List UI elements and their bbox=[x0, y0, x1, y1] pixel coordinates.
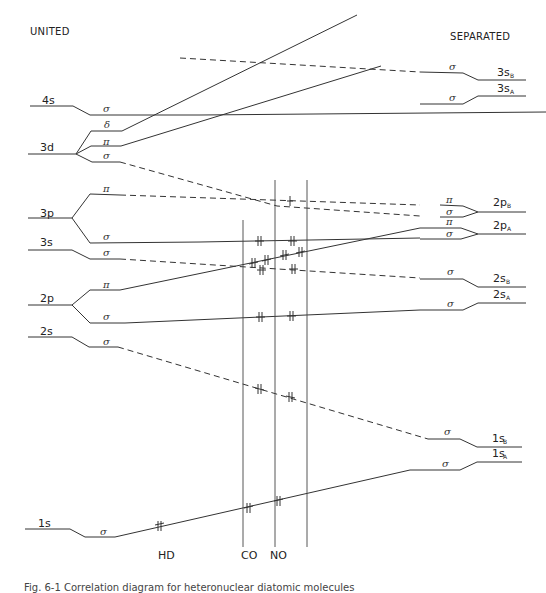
co-label: CO bbox=[241, 549, 258, 562]
separated-level-3sA: σ 3s A bbox=[420, 82, 526, 104]
svg-text:σ: σ bbox=[103, 247, 111, 258]
svg-text:3s: 3s bbox=[40, 236, 53, 249]
svg-text:A: A bbox=[510, 88, 515, 95]
separated-level-2pA: π σ 2p A bbox=[420, 216, 526, 239]
svg-text:3s: 3s bbox=[497, 66, 510, 79]
no-label: NO bbox=[270, 549, 287, 562]
svg-text:σ: σ bbox=[103, 336, 111, 347]
united-level-3d: 3d δ π σ bbox=[28, 15, 420, 216]
electron-pairs bbox=[155, 196, 305, 531]
hd-label: HD bbox=[158, 549, 175, 562]
svg-text:A: A bbox=[506, 294, 511, 301]
svg-text:δ: δ bbox=[104, 119, 110, 130]
svg-text:σ: σ bbox=[103, 231, 111, 242]
separated-level-3sB: σ 3s B bbox=[420, 61, 526, 80]
svg-text:B: B bbox=[507, 202, 511, 209]
svg-text:σ: σ bbox=[449, 61, 457, 72]
svg-text:σ: σ bbox=[103, 311, 111, 322]
separated-level-2sB: σ 2s B bbox=[420, 266, 526, 287]
separated-level-2pB: π σ 2p B bbox=[440, 194, 526, 217]
svg-text:A: A bbox=[507, 225, 512, 232]
svg-text:π: π bbox=[102, 136, 110, 147]
svg-text:1s: 1s bbox=[38, 517, 51, 530]
united-header: UNITED bbox=[30, 26, 70, 37]
svg-text:B: B bbox=[503, 438, 507, 445]
united-level-2s: 2s σ bbox=[28, 325, 428, 439]
svg-text:π: π bbox=[445, 194, 453, 205]
svg-text:σ: σ bbox=[444, 426, 452, 437]
svg-text:2p: 2p bbox=[493, 219, 507, 232]
svg-text:2s: 2s bbox=[493, 288, 506, 301]
svg-text:2p: 2p bbox=[40, 292, 54, 305]
separated-header: SEPARATED bbox=[450, 31, 510, 42]
svg-text:σ: σ bbox=[103, 103, 111, 114]
united-level-2p: 2p π σ bbox=[28, 228, 420, 323]
separated-level-1sB: σ 1s B bbox=[428, 426, 522, 447]
svg-text:3s: 3s bbox=[497, 82, 510, 95]
svg-text:σ: σ bbox=[103, 150, 111, 161]
united-level-3s: 3s σ bbox=[28, 236, 420, 278]
svg-text:2s: 2s bbox=[493, 272, 506, 285]
united-level-4s: 4s σ bbox=[30, 94, 546, 115]
svg-text:4s: 4s bbox=[42, 94, 55, 107]
svg-text:σ: σ bbox=[446, 228, 454, 239]
united-level-3p: 3p π σ bbox=[28, 183, 420, 243]
separated-level-1sA: σ 1s A bbox=[410, 447, 522, 470]
svg-text:σ: σ bbox=[447, 266, 455, 277]
figure-caption: Fig. 6-1 Correlation diagram for heteron… bbox=[24, 582, 354, 593]
svg-text:π: π bbox=[102, 183, 110, 194]
svg-text:σ: σ bbox=[100, 526, 108, 537]
svg-text:A: A bbox=[503, 453, 508, 460]
svg-text:σ: σ bbox=[442, 458, 450, 469]
svg-text:σ: σ bbox=[449, 92, 457, 103]
svg-text:B: B bbox=[506, 278, 510, 285]
svg-text:σ: σ bbox=[447, 298, 455, 309]
svg-text:B: B bbox=[510, 72, 514, 79]
svg-text:3d: 3d bbox=[40, 141, 54, 154]
united-level-1s: 1s σ bbox=[25, 470, 410, 537]
svg-text:2p: 2p bbox=[493, 196, 507, 209]
svg-text:π: π bbox=[445, 216, 453, 227]
svg-text:2s: 2s bbox=[40, 325, 53, 338]
separated-level-2sA: σ 2s A bbox=[420, 288, 526, 310]
svg-text:π: π bbox=[102, 279, 110, 290]
